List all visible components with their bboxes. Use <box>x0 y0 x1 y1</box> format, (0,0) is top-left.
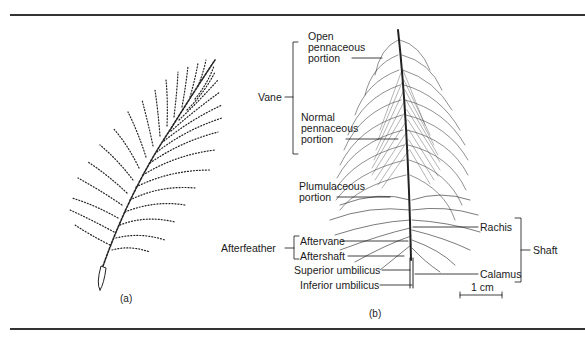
scale-bar-label: 1 cm <box>471 282 494 293</box>
label-line: portion <box>308 53 365 64</box>
label-rachis: Rachis <box>480 222 512 233</box>
label-line: portion <box>301 134 358 145</box>
label-calamus: Calamus <box>480 269 521 280</box>
label-aftervane: Aftervane <box>300 236 345 247</box>
feather-a-illustration <box>70 60 222 290</box>
label-afterfeather: Afterfeather <box>221 243 276 254</box>
label-normal-pennaceous: Normal pennaceous portion <box>301 112 358 145</box>
caption-b: (b) <box>369 308 381 319</box>
label-shaft: Shaft <box>533 245 558 256</box>
label-superior-umbilicus: Superior umbilicus <box>294 265 380 276</box>
label-plumulaceous: Plumulaceous portion <box>299 181 365 203</box>
label-line: portion <box>299 192 365 203</box>
label-open-pennaceous: Open pennaceous portion <box>308 31 365 64</box>
label-inferior-umbilicus: Inferior umbilicus <box>300 280 379 291</box>
caption-a: (a) <box>120 293 132 304</box>
feather-illustrations <box>0 0 585 339</box>
label-aftershaft: Aftershaft <box>300 251 345 262</box>
label-vane: Vane <box>258 92 282 103</box>
